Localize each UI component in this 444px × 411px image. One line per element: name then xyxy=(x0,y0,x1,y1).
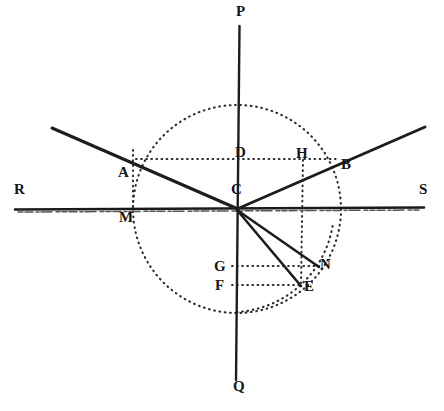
point-label-F: F xyxy=(215,278,224,293)
point-label-H: H xyxy=(296,146,308,161)
normal-axis-PQ xyxy=(236,26,240,380)
point-label-D: D xyxy=(235,145,246,160)
optics-diagram-svg xyxy=(0,0,444,411)
point-label-G: G xyxy=(214,259,226,274)
incident-ray xyxy=(52,128,238,209)
point-label-B: B xyxy=(341,157,351,172)
point-label-S: S xyxy=(419,182,427,197)
point-label-A: A xyxy=(118,165,129,180)
point-label-E: E xyxy=(304,279,314,294)
point-label-M: M xyxy=(119,210,133,225)
point-label-C: C xyxy=(231,182,242,197)
point-label-R: R xyxy=(14,182,25,197)
reflected-ray xyxy=(237,127,425,209)
point-label-N: N xyxy=(320,257,331,272)
figure-canvas: P Q R S A B C D H M G F N E xyxy=(0,0,444,411)
point-label-P: P xyxy=(236,4,245,19)
surface-axis-RS xyxy=(15,208,424,210)
point-label-Q: Q xyxy=(233,379,245,394)
